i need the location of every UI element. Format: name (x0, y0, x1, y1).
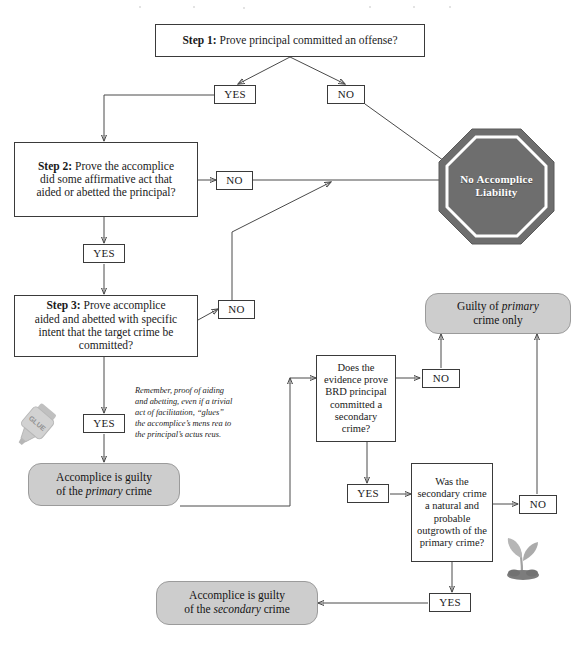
guilty-primary-only-line-1-pre: Guilty of (457, 300, 502, 312)
step-1-label: Step 1: (182, 34, 216, 46)
branch-natural-probable-no-label: NO (530, 499, 547, 510)
np-line-4: probable (434, 513, 471, 524)
note-line-2: and abetting, even if a trivial (135, 397, 232, 406)
branch-step2-no-label: NO (226, 175, 243, 186)
branch-step3-no-label: NO (228, 304, 245, 315)
primary-guilty-line-1: Accomplice is guilty (56, 471, 152, 483)
branch-step1-no-label: NO (338, 89, 355, 100)
secondary-guilty-line-1: Accomplice is guilty (189, 589, 285, 601)
step-3-line-4: committed? (79, 339, 133, 351)
np-line-6: primary crime? (420, 537, 484, 548)
seedling-icon (495, 528, 553, 582)
step-2-label: Step 2: (38, 160, 72, 172)
branch-step3-no[interactable]: NO (218, 300, 255, 319)
primary-guilty-text: Accomplice is guilty of the primary crim… (56, 471, 152, 499)
node-step-3: Step 3: Prove accomplice aided and abett… (14, 295, 198, 357)
primary-guilty-line-2-post: crime (123, 485, 152, 497)
brd-line-5: secondary crime? (335, 411, 378, 434)
note-line-5: the principal’s actus reus. (135, 430, 221, 439)
np-line-5: outgrowth of the (417, 525, 487, 536)
branch-step2-yes[interactable]: YES (83, 244, 125, 263)
step-3-text: Step 3: Prove accomplice aided and abett… (35, 299, 177, 352)
node-natural-probable-outgrowth-question: Was the secondary crime a natural and pr… (411, 463, 493, 562)
branch-brd-no-label: NO (433, 373, 450, 384)
flowchart-canvas: Step 1: Prove principal committed an off… (0, 0, 583, 647)
natural-probable-text: Was the secondary crime a natural and pr… (417, 476, 487, 549)
secondary-guilty-line-2-post: crime (261, 603, 290, 615)
node-step-2: Step 2: Prove the accomplice did some af… (14, 142, 198, 217)
node-brd-secondary-crime-question: Does the evidence prove BRD principal co… (316, 355, 396, 442)
step-2-line-3: aided or abetted the principal? (36, 186, 175, 198)
guilty-primary-only-text: Guilty of primary crime only (457, 300, 539, 328)
np-line-1: Was the (435, 476, 468, 487)
remember-note: Remember, proof of aiding and abetting, … (135, 385, 265, 440)
secondary-guilty-text: Accomplice is guilty of the secondary cr… (184, 589, 290, 617)
brd-line-4: committed a (330, 399, 382, 410)
guilty-primary-only-line-2: crime only (473, 314, 523, 326)
guilty-primary-only-emphasis: primary (502, 300, 539, 312)
note-line-4: the accomplice’s mens rea to (135, 419, 231, 428)
node-accomplice-guilty-secondary: Accomplice is guilty of the secondary cr… (156, 581, 318, 625)
brd-line-2: evidence prove (324, 374, 388, 385)
step-1-body: Prove principal committed an offense? (217, 34, 398, 46)
branch-step2-no[interactable]: NO (216, 171, 253, 190)
branch-step2-yes-label: YES (93, 248, 115, 259)
secondary-guilty-emphasis: secondary (214, 603, 261, 615)
step-3-line-3: intent that the target crime be (39, 326, 174, 338)
glue-bottle-icon: GLUE (6, 400, 64, 452)
node-accomplice-guilty-primary: Accomplice is guilty of the primary crim… (28, 463, 180, 506)
secondary-guilty-line-2-pre: of the (184, 603, 213, 615)
branch-step1-no[interactable]: NO (327, 85, 365, 104)
step-2-line-2: did some affirmative act that (40, 173, 172, 185)
step-3-line-2: aided and abetted with specific (35, 313, 177, 325)
brd-line-1: Does the (337, 362, 374, 373)
branch-natural-probable-no[interactable]: NO (519, 495, 557, 514)
np-line-2: secondary crime (417, 488, 486, 499)
branch-step1-yes-label: YES (224, 89, 246, 100)
branch-natural-probable-yes-label: YES (439, 597, 461, 608)
branch-natural-probable-yes[interactable]: YES (429, 593, 471, 612)
brd-question-text: Does the evidence prove BRD principal co… (320, 362, 392, 435)
step-1-text: Step 1: Prove principal committed an off… (182, 34, 397, 47)
node-step-1: Step 1: Prove principal committed an off… (155, 24, 425, 57)
step-2-line-1: Prove the accomplice (72, 160, 174, 172)
note-line-3: act of facilitation, “glues” (135, 408, 224, 417)
scan-header-remnant (132, 0, 462, 10)
np-line-3: a natural and (425, 500, 479, 511)
branch-step3-yes-label: YES (93, 418, 115, 429)
step-3-line-1: Prove accomplice (81, 299, 166, 311)
branch-step3-yes[interactable]: YES (83, 414, 125, 433)
note-line-1: Remember, proof of aiding (135, 386, 224, 395)
node-guilty-primary-only: Guilty of primary crime only (425, 293, 571, 334)
branch-brd-yes-label: YES (357, 488, 379, 499)
branch-step1-yes[interactable]: YES (214, 85, 256, 104)
node-no-accomplice-liability: No Accomplice Liability (438, 128, 555, 245)
brd-line-3: BRD principal (325, 386, 387, 397)
step-3-label: Step 3: (46, 299, 80, 311)
primary-guilty-emphasis: primary (86, 485, 123, 497)
branch-brd-yes[interactable]: YES (347, 484, 389, 503)
primary-guilty-line-2-pre: of the (56, 485, 85, 497)
step-2-text: Step 2: Prove the accomplice did some af… (36, 160, 175, 200)
branch-brd-no[interactable]: NO (422, 369, 460, 388)
